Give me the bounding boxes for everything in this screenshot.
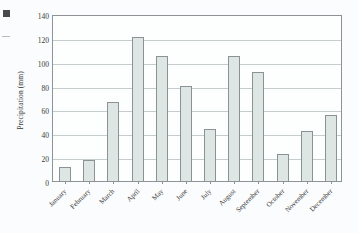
bar xyxy=(228,56,240,181)
y-axis-tick-label: 20 xyxy=(42,155,50,164)
bar xyxy=(107,102,119,181)
x-axis-tick xyxy=(258,181,259,184)
bar xyxy=(83,160,95,181)
scan-artifact-square-icon xyxy=(3,10,10,17)
y-axis-title: Precipitation (mm) xyxy=(16,46,25,156)
x-axis-tick xyxy=(65,181,66,184)
x-axis-tick xyxy=(138,181,139,184)
bar xyxy=(204,129,216,181)
bar xyxy=(277,154,289,181)
x-axis-tick xyxy=(210,181,211,184)
x-axis-tick xyxy=(162,181,163,184)
bar xyxy=(325,115,337,181)
scan-artifact-dash-icon xyxy=(2,36,10,37)
bar xyxy=(252,72,264,181)
x-axis-tick xyxy=(234,181,235,184)
bar xyxy=(156,56,168,181)
x-axis-tick xyxy=(283,181,284,184)
y-axis-tick-label: 100 xyxy=(38,59,49,68)
bar xyxy=(301,131,313,181)
bar xyxy=(180,86,192,181)
x-axis-tick xyxy=(186,181,187,184)
bars-group xyxy=(53,16,341,181)
x-axis-tick xyxy=(89,181,90,184)
bar xyxy=(132,37,144,181)
y-axis-tick-label: 40 xyxy=(42,131,50,140)
bar xyxy=(59,167,71,181)
x-axis-tick xyxy=(331,181,332,184)
y-axis-tick-label: 60 xyxy=(42,107,50,116)
x-axis-tick-labels-group: JanuaryFebruaryMarchAprilMayJuneJulyAugu… xyxy=(52,186,342,233)
plot-area: 020406080100120140 xyxy=(52,15,342,182)
precipitation-bar-chart-figure: Precipitation (mm) 020406080100120140 Ja… xyxy=(0,0,358,233)
x-axis-tick xyxy=(113,181,114,184)
y-axis-tick-label: 140 xyxy=(38,12,49,21)
y-axis-tick-label: 120 xyxy=(38,35,49,44)
y-axis-tick-label: 80 xyxy=(42,83,50,92)
y-axis-tick-label: 0 xyxy=(45,179,49,188)
x-axis-tick xyxy=(307,181,308,184)
